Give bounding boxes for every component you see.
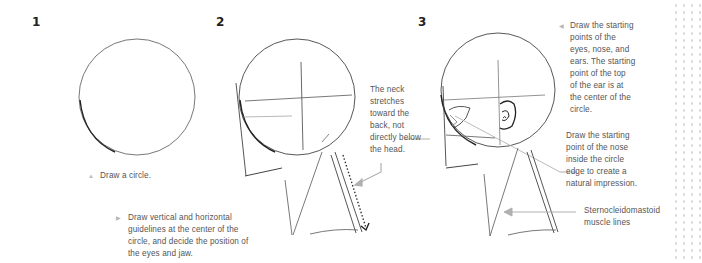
step1-caption: ▲Draw a circle.: [88, 170, 151, 182]
note-line: of the ear is at: [570, 80, 635, 92]
note-line: point of the top: [570, 68, 635, 80]
callout-line: stretches: [370, 96, 421, 108]
step2-caption-line: guidelines at the center of the: [128, 224, 248, 236]
callout-line: back, not: [370, 120, 421, 132]
note-line: edge to create a: [566, 166, 637, 178]
callout-line: directly below: [370, 132, 421, 144]
triangle-up-bullet-icon: ▲: [88, 173, 94, 179]
step2-callout-arrow: [355, 163, 381, 186]
step2-caption-line: Draw vertical and horizontal: [128, 212, 248, 224]
step2-caption-line: circle, and decide the position of: [128, 236, 248, 248]
step2-caption: ▶ Draw vertical and horizontal guideline…: [128, 212, 248, 260]
note-line: muscle lines: [584, 217, 660, 229]
triangle-left-bullet-icon: ◀: [559, 20, 564, 32]
note-line: Sternocleidomastoid: [584, 205, 660, 217]
decorative-dot-pattern: [670, 0, 702, 263]
step3-note-muscle: Sternocleidomastoid muscle lines: [584, 205, 660, 229]
note-line: eyes, nose, and: [570, 44, 635, 56]
step1-caption-text: Draw a circle.: [100, 171, 151, 180]
step3-head-features-drawing: [441, 33, 560, 236]
note-line: point of the nose: [566, 142, 637, 154]
step2-neck-callout: The neck stretches toward the back, not …: [370, 84, 421, 156]
callout-line: The neck: [370, 84, 421, 96]
note-line: points of the: [570, 32, 635, 44]
note-line: Draw the starting: [566, 130, 637, 142]
note-line: natural impression.: [566, 178, 637, 190]
note-line: ears. The starting: [570, 56, 635, 68]
step1-circle-drawing: [79, 39, 195, 155]
note-line: circle.: [570, 104, 635, 116]
step3-callout-arrows: [404, 139, 577, 216]
callout-line: toward the: [370, 108, 421, 120]
callout-line: the head.: [370, 144, 421, 156]
step3-note-nose: Draw the starting point of the nose insi…: [566, 130, 637, 190]
step3-note-features: ◀ Draw the starting points of the eyes, …: [570, 20, 635, 116]
triangle-right-bullet-icon: ▶: [116, 212, 121, 224]
step2-head-guidelines-drawing: [236, 39, 369, 235]
note-line: Draw the starting: [570, 20, 635, 32]
note-line: inside the circle: [566, 154, 637, 166]
note-line: the center of the: [570, 92, 635, 104]
step2-caption-line: the eyes and jaw.: [128, 248, 248, 260]
